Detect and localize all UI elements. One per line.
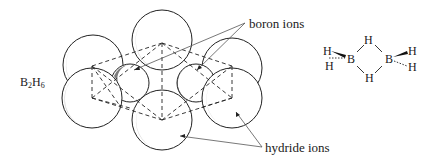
hydride-ions-label: hydride ions <box>265 141 330 154</box>
atom-h-bridge-bottom: H <box>365 72 374 84</box>
atom-h-terminal-right-top: H <box>408 45 417 57</box>
formula-hydrogen-count: 6 <box>41 81 45 90</box>
atom-b-right: B <box>385 53 393 65</box>
diborane-diagram: B2H6 boron ions hydride ions H H B H H B… <box>0 0 435 162</box>
structural-formula-bonds <box>329 45 407 73</box>
formula-hydrogen: H <box>32 75 41 89</box>
formula-boron: B <box>20 75 28 89</box>
molecular-formula: B2H6 <box>20 75 45 90</box>
atom-b-left: B <box>347 53 355 65</box>
atom-h-terminal-left-bottom: H <box>325 60 334 72</box>
atom-h-bridge-top: H <box>364 34 373 46</box>
boron-ions-label: boron ions <box>249 17 304 30</box>
atom-h-terminal-right-bottom: H <box>408 61 417 73</box>
atom-h-terminal-left-top: H <box>323 45 332 57</box>
wedge-bonds <box>331 51 408 58</box>
